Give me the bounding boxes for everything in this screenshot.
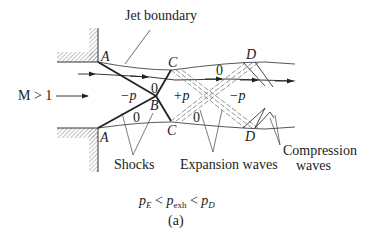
region-minus-p-left: −p [120, 89, 136, 103]
expansion-waves-label: Expansion waves [180, 158, 278, 172]
point-a-lower: A [100, 131, 109, 145]
region-zero-lower-b: 0 [133, 111, 140, 125]
point-a-upper: A [101, 50, 110, 64]
region-zero-lower-c: 0 [193, 111, 200, 125]
pressure-condition: pE < pexh < pD [139, 194, 215, 210]
upper-nozzle-wall [57, 28, 98, 62]
shocks-label: Shocks [114, 158, 154, 172]
point-d-upper: D [246, 48, 256, 62]
region-minus-p-right: −p [229, 89, 245, 103]
leader-lines [122, 110, 280, 155]
point-b: B [150, 99, 159, 113]
jet-boundary-label: Jet boundary [125, 9, 197, 23]
region-zero-upper-b: 0 [151, 82, 158, 96]
point-c-upper: C [168, 56, 177, 70]
jet-boundary-upper [98, 62, 295, 70]
mach-label: M > 1 [18, 89, 52, 103]
region-zero-upper-c: 0 [216, 64, 223, 78]
caption-tag: (a) [168, 214, 184, 228]
compression-waves-label-line1: Compression [283, 144, 357, 158]
compression-waves [243, 62, 274, 128]
streamline [78, 74, 295, 81]
point-c-lower: C [167, 124, 176, 138]
jet-boundary-leader [125, 30, 150, 64]
region-plus-p: +p [173, 89, 189, 103]
point-d-lower: D [245, 130, 255, 144]
lower-nozzle-wall [57, 128, 98, 172]
compression-waves-label-line2: waves [296, 159, 331, 173]
